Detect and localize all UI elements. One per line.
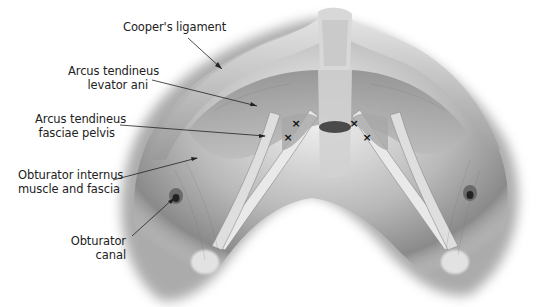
suture-marker: × [362, 131, 371, 144]
label-obturator-canal: Obturator canal [58, 234, 126, 262]
suture-marker: × [283, 131, 292, 144]
label-obturator-internus: Obturator internus muscle and fascia [18, 168, 123, 196]
suture-marker: × [291, 117, 300, 130]
suture-marker: × [349, 117, 358, 130]
label-arcus-tendineus-levator-ani: Arcus tendineus levator ani [68, 64, 148, 92]
label-coopers-ligament: Cooper's ligament [123, 20, 226, 34]
label-arcus-tendineus-fasciae-pelvis: Arcus tendineus fasciae pelvis [35, 112, 115, 140]
right-obturator-canal [463, 185, 477, 201]
anatomy-figure: × × × × Cooper's ligament Arcus tendineu… [0, 0, 536, 307]
